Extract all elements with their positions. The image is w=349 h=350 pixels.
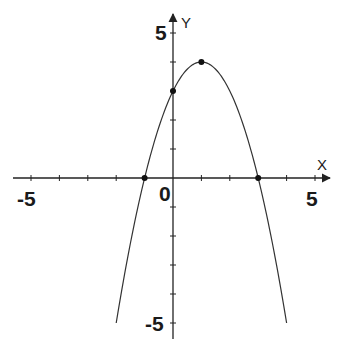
parabola-chart: -5 5 0 5 -5 Y X	[0, 0, 349, 350]
point-root-right	[255, 175, 261, 181]
parabola-curve	[116, 62, 286, 323]
point-vertex	[198, 59, 204, 65]
point-root-left	[142, 175, 148, 181]
x-tick-label-neg5: -5	[17, 187, 36, 210]
x-tick-label-pos5: 5	[306, 187, 318, 210]
y-tick-label-pos5: 5	[155, 21, 167, 44]
x-axis-label: X	[317, 156, 327, 173]
y-tick-label-neg5: -5	[145, 312, 164, 335]
point-y-intercept	[170, 88, 176, 94]
marked-points	[142, 59, 262, 181]
y-axis-label: Y	[181, 14, 191, 31]
origin-label: 0	[159, 182, 171, 205]
